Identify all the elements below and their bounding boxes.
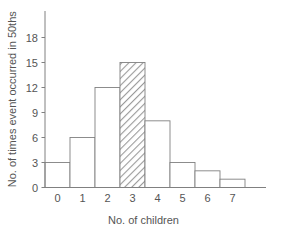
y-tick-label: 9 xyxy=(32,107,38,119)
y-tick-label: 0 xyxy=(32,182,38,194)
x-tick-label: 3 xyxy=(129,192,135,204)
y-tick-group: 0369121518 xyxy=(26,32,45,194)
bar xyxy=(195,171,220,188)
x-tick-label: 5 xyxy=(179,192,185,204)
y-tick-label: 12 xyxy=(26,82,38,94)
x-tick-label: 6 xyxy=(204,192,210,204)
y-axis-title: No. of times event occurred in 50ths xyxy=(6,11,18,188)
bar xyxy=(170,163,195,188)
y-tick-label: 18 xyxy=(26,32,38,44)
bar-highlighted xyxy=(120,63,145,188)
chart-canvas: 0369121518 01234567 No. of times event o… xyxy=(0,0,284,230)
y-tick-label: 6 xyxy=(32,132,38,144)
y-tick-label: 15 xyxy=(26,57,38,69)
x-axis-title: No. of children xyxy=(108,214,179,226)
bar xyxy=(220,179,245,187)
x-tick-label: 0 xyxy=(54,192,60,204)
bar xyxy=(95,88,120,188)
x-tick-label: 4 xyxy=(154,192,160,204)
bars-group xyxy=(45,63,245,188)
histogram-figure: 0369121518 01234567 No. of times event o… xyxy=(0,0,284,230)
x-tick-label: 1 xyxy=(79,192,85,204)
x-tick-group: 01234567 xyxy=(54,192,235,204)
y-tick-label: 3 xyxy=(32,157,38,169)
x-tick-label: 7 xyxy=(229,192,235,204)
bar xyxy=(70,138,95,188)
x-tick-label: 2 xyxy=(104,192,110,204)
bar xyxy=(145,121,170,188)
bar xyxy=(45,163,70,188)
